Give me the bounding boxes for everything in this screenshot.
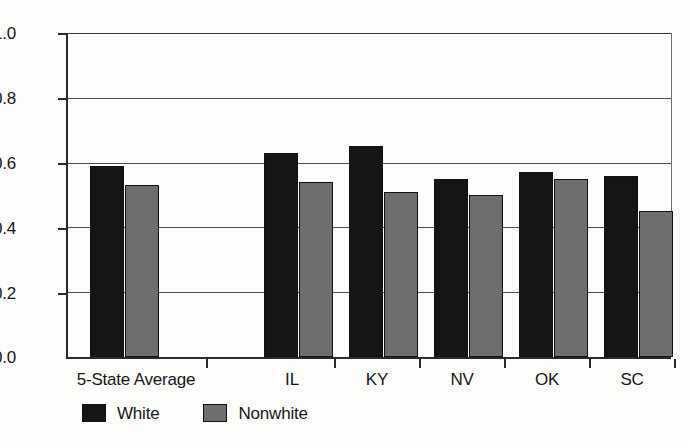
gridline-1-0	[68, 33, 671, 34]
y-tick-label-0-6: 0.6	[0, 155, 16, 172]
legend-entry-nonwhite: Nonwhite	[203, 404, 307, 422]
bar-ky-white	[349, 146, 383, 357]
x-tick-label-nv: NV	[450, 371, 473, 389]
x-tick-label-5-state-average: 5-State Average	[77, 371, 196, 389]
bar-nv-white	[434, 179, 468, 357]
x-tick-label-il: IL	[285, 371, 299, 389]
x-tick-label-sc: SC	[620, 371, 643, 389]
bar-il-white	[264, 153, 298, 357]
bar-nv-nonwhite	[469, 195, 503, 357]
y-tick-label-0-8: 0.8	[0, 90, 16, 107]
x-tick-mark-ky	[419, 359, 421, 368]
legend-swatch-white-icon	[82, 404, 106, 422]
bar-ky-nonwhite	[384, 192, 418, 357]
x-tick-mark-5-state-average	[206, 359, 208, 368]
legend-swatch-nonwhite-icon	[203, 404, 227, 422]
legend-label-nonwhite: Nonwhite	[238, 405, 307, 422]
y-tick-label-1-0: 1.0	[0, 25, 16, 42]
x-tick-mark-sc	[674, 359, 676, 368]
bar-5-state-average-white	[90, 166, 124, 357]
bar-5-state-average-nonwhite	[125, 185, 159, 357]
bar-il-nonwhite	[299, 182, 333, 357]
x-tick-label-ky: KY	[366, 371, 388, 389]
legend-entry-white: White	[82, 404, 159, 422]
legend: White Nonwhite	[82, 404, 308, 422]
legend-label-white: White	[117, 405, 159, 422]
x-axis: 5-State Average IL KY NV OK SC	[66, 359, 669, 399]
x-tick-mark-il	[334, 359, 336, 368]
bar-sc-nonwhite	[639, 211, 673, 357]
y-tick-label-0-2: 0.2	[0, 285, 16, 302]
x-tick-label-ok: OK	[535, 371, 559, 389]
bar-chart-figure: 1.0 0.8 0.6 0.4 0.2 0.0	[0, 0, 690, 446]
x-tick-mark-ok	[589, 359, 591, 368]
plot-area	[66, 33, 671, 359]
bar-sc-white	[604, 176, 638, 357]
bar-ok-white	[519, 172, 553, 357]
bar-ok-nonwhite	[554, 179, 588, 357]
gridline-0-8	[68, 98, 671, 99]
x-tick-mark-nv	[504, 359, 506, 368]
y-tick-label-0-0: 0.0	[0, 349, 16, 366]
y-tick-label-0-4: 0.4	[0, 220, 16, 237]
